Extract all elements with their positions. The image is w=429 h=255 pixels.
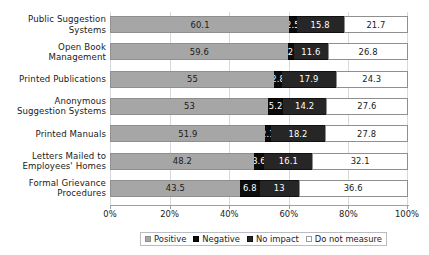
category-label: AnonymousSuggestion Systems (0, 96, 106, 116)
legend-label: Do not measure (315, 234, 382, 244)
x-axis-tick-label: 20% (150, 209, 190, 219)
legend-item-do-not-measure[interactable]: Do not measure (306, 234, 382, 244)
bar-segment-negative: 3.6 (254, 153, 265, 170)
category-label-line: Printed Publications (0, 74, 106, 84)
bar-segment-positive: 55 (110, 71, 274, 88)
category-label-line: Procedures (0, 188, 106, 198)
legend-swatch-icon (193, 236, 199, 242)
bar-segment-no-impact: 16.1 (264, 153, 312, 170)
bar-segment-positive: 51.9 (110, 125, 265, 142)
legend-item-positive[interactable]: Positive (145, 234, 186, 244)
bar-row: 552.817.924.3 (110, 71, 408, 88)
bar-segment-no-impact: 11.6 (294, 43, 329, 60)
bar-segment-value-label: 43.5 (166, 183, 185, 193)
bar-segment-positive: 60.1 (110, 16, 289, 33)
bar-segment-negative: 5.2 (268, 98, 283, 115)
category-label-line: Employees' Homes (0, 161, 106, 171)
bar-segment-value-label: 13 (274, 183, 285, 193)
bar-segment-value-label: 60.1 (191, 20, 210, 30)
bar-segment-value-label: 3.6 (254, 156, 265, 166)
bar-segment-value-label: 18.2 (288, 129, 307, 139)
category-label-line: Printed Manuals (0, 129, 106, 139)
legend-item-no-impact[interactable]: No impact (247, 234, 299, 244)
bar-row: 59.6211.626.8 (110, 43, 408, 60)
bar-segment-positive: 43.5 (110, 180, 240, 197)
bar-segment-value-label: 24.3 (362, 74, 381, 84)
category-label: Public SuggestionSystems (0, 14, 106, 34)
plot-area: 60.12.515.821.759.6211.626.8552.817.924.… (110, 12, 408, 205)
x-axis-tick-label: 0% (90, 209, 130, 219)
bar-segment-value-label: 15.8 (311, 20, 330, 30)
category-label-line: Open Book (0, 42, 106, 52)
bar-row: 51.92.118.227.8 (110, 125, 408, 142)
bar-segment-value-label: 6.8 (243, 183, 257, 193)
bar-row: 535.214.227.6 (110, 98, 408, 115)
bar-segment-positive: 59.6 (110, 43, 288, 60)
category-label-line: Anonymous (0, 96, 106, 106)
bar-row: 60.12.515.821.7 (110, 16, 408, 33)
bar-segment-value-label: 11.6 (301, 47, 320, 57)
bar-segment-no-impact: 18.2 (271, 125, 325, 142)
x-axis-line (110, 205, 409, 206)
cropped-header-text (6, 0, 146, 7)
x-axis-tick-label: 100% (387, 209, 427, 219)
legend-item-negative[interactable]: Negative (193, 234, 240, 244)
bar-segment-value-label: 48.2 (173, 156, 192, 166)
legend-label: Positive (154, 234, 186, 244)
bar-segment-value-label: 14.2 (295, 101, 314, 111)
bar-segment-no-impact: 15.8 (297, 16, 344, 33)
bar-segment-value-label: 2.8 (274, 74, 282, 84)
bar-segment-do-not-measure: 27.8 (325, 125, 408, 142)
bar-segment-negative: 6.8 (240, 180, 260, 197)
category-axis-labels: Public SuggestionSystemsOpen BookManagem… (0, 12, 106, 205)
category-label: Open BookManagement (0, 42, 106, 62)
bar-segment-value-label: 2 (288, 47, 293, 57)
bar-segment-no-impact: 17.9 (282, 71, 335, 88)
x-axis-tick-label: 80% (328, 209, 368, 219)
legend-swatch-icon (145, 236, 151, 242)
chart-legend: PositiveNegativeNo impactDo not measure (140, 232, 387, 246)
bar-segment-value-label: 21.7 (366, 20, 385, 30)
bar-segment-value-label: 17.9 (299, 74, 318, 84)
x-axis-tick-label: 60% (269, 209, 309, 219)
bar-segment-negative: 2.5 (289, 16, 296, 33)
category-label-line: Management (0, 52, 106, 62)
bar-segment-value-label: 53 (184, 101, 195, 111)
category-label-line: Public Suggestion (0, 14, 106, 24)
legend-swatch-icon (306, 236, 312, 242)
x-axis-tick-label: 40% (209, 209, 249, 219)
bar-segment-value-label: 59.6 (190, 47, 209, 57)
bar-segment-negative: 2.8 (274, 71, 282, 88)
bar-segment-value-label: 27.6 (357, 101, 376, 111)
bar-segment-value-label: 51.9 (178, 129, 197, 139)
bar-segment-value-label: 36.6 (344, 183, 363, 193)
legend-swatch-icon (247, 236, 253, 242)
bar-row: 43.56.81336.6 (110, 180, 408, 197)
bar-segment-do-not-measure: 26.8 (328, 43, 408, 60)
bar-segment-value-label: 2.5 (289, 20, 296, 30)
bar-row: 48.23.616.132.1 (110, 153, 408, 170)
category-label: Printed Manuals (0, 129, 106, 139)
category-label: Printed Publications (0, 74, 106, 84)
bar-segment-do-not-measure: 36.6 (299, 180, 408, 197)
category-label-line: Systems (0, 25, 106, 35)
bar-segment-positive: 48.2 (110, 153, 254, 170)
bar-segment-positive: 53 (110, 98, 268, 115)
bar-segment-value-label: 5.2 (269, 101, 283, 111)
bar-segment-value-label: 26.8 (359, 47, 378, 57)
stacked-bar-chart: 60.12.515.821.759.6211.626.8552.817.924.… (0, 0, 429, 255)
bar-segment-value-label: 55 (187, 74, 198, 84)
category-label-line: Suggestion Systems (0, 106, 106, 116)
bar-segment-do-not-measure: 21.7 (344, 16, 409, 33)
bar-segment-value-label: 27.8 (357, 129, 376, 139)
bar-segment-do-not-measure: 24.3 (336, 71, 408, 88)
category-label: Letters Mailed toEmployees' Homes (0, 151, 106, 171)
legend-label: Negative (202, 234, 240, 244)
category-label: Formal GrievanceProcedures (0, 178, 106, 198)
bar-segment-no-impact: 13 (260, 180, 299, 197)
category-label-line: Formal Grievance (0, 178, 106, 188)
bar-segment-value-label: 32.1 (351, 156, 370, 166)
legend-label: No impact (256, 234, 299, 244)
bar-segment-no-impact: 14.2 (283, 98, 325, 115)
category-label-line: Letters Mailed to (0, 151, 106, 161)
